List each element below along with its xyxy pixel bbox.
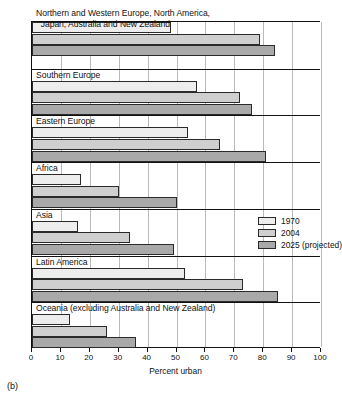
bar-group: Oceania (excluding Australia and New Zea… — [32, 302, 320, 349]
x-tick-label-70: 70 — [229, 353, 238, 362]
legend-swatch-2025 — [258, 241, 276, 249]
chart-legend: 1970 2004 2025 (projected) — [258, 215, 342, 251]
bar-2025projected — [32, 291, 278, 302]
x-tick-40 — [147, 348, 148, 352]
legend-item: 1970 — [258, 215, 342, 226]
x-tick-label-10: 10 — [55, 353, 64, 362]
bar-2004 — [32, 326, 107, 337]
x-tick-label-90: 90 — [287, 353, 296, 362]
gridline-100 — [321, 22, 322, 347]
legend-item: 2004 — [258, 227, 342, 238]
group-separator — [32, 162, 320, 163]
bar-group: Eastern Europe — [32, 115, 320, 162]
legend-item: 2025 (projected) — [258, 239, 342, 250]
chart-plot-area: Northern and Western Europe, North Ameri… — [31, 21, 320, 348]
x-tick-label-60: 60 — [200, 353, 209, 362]
bar-2025projected — [32, 197, 177, 208]
bar-1970 — [32, 221, 78, 232]
x-axis-title: Percent urban — [31, 366, 320, 376]
bar-2004 — [32, 139, 220, 150]
legend-label-2004: 2004 — [281, 228, 300, 238]
bar-2004 — [32, 279, 243, 290]
legend-swatch-2004 — [258, 229, 276, 237]
bar-group: Latin America — [32, 256, 320, 303]
x-tick-60 — [204, 348, 205, 352]
x-tick-50 — [176, 348, 177, 352]
bar-2004 — [32, 92, 240, 103]
x-tick-20 — [89, 348, 90, 352]
x-tick-label-20: 20 — [84, 353, 93, 362]
x-tick-label-40: 40 — [142, 353, 151, 362]
x-tick-label-100: 100 — [313, 353, 326, 362]
bar-2025projected — [32, 151, 266, 162]
bar-1970 — [32, 268, 185, 279]
bar-group: Southern Europe — [32, 69, 320, 116]
bar-1970 — [32, 81, 197, 92]
x-tick-70 — [233, 348, 234, 352]
x-tick-0 — [31, 348, 32, 352]
x-tick-10 — [60, 348, 61, 352]
bar-2004 — [32, 34, 260, 45]
legend-label-1970: 1970 — [281, 216, 300, 226]
bar-group-label: Latin America — [36, 257, 87, 268]
x-tick-label-80: 80 — [258, 353, 267, 362]
bar-2025projected — [32, 104, 252, 115]
bar-2025projected — [32, 244, 174, 255]
bar-group: Africa — [32, 162, 320, 209]
bar-group-label: Asia — [36, 210, 53, 221]
legend-swatch-1970 — [258, 217, 276, 225]
bar-2025projected — [32, 337, 136, 348]
x-tick-90 — [291, 348, 292, 352]
group-separator — [32, 209, 320, 210]
bar-group-label: Oceania (excluding Australia and New Zea… — [36, 303, 215, 314]
x-tick-100 — [320, 348, 321, 352]
bar-1970 — [32, 314, 70, 325]
bar-group: Northern and Western Europe, North Ameri… — [32, 22, 320, 69]
bar-1970 — [32, 127, 188, 138]
x-tick-80 — [262, 348, 263, 352]
x-tick-30 — [118, 348, 119, 352]
x-tick-label-50: 50 — [171, 353, 180, 362]
bar-group-label: Africa — [36, 163, 58, 174]
bar-2025projected — [32, 45, 275, 56]
x-tick-label-0: 0 — [29, 353, 33, 362]
bar-2004 — [32, 186, 119, 197]
bar-group-label: Northern and Western Europe, North Ameri… — [36, 8, 210, 29]
bar-group-label: Southern Europe — [36, 70, 100, 81]
bar-2004 — [32, 232, 130, 243]
legend-label-2025: 2025 (projected) — [281, 240, 342, 250]
x-tick-label-30: 30 — [113, 353, 122, 362]
bar-group-label: Eastern Europe — [36, 116, 95, 127]
panel-caption: (b) — [7, 381, 18, 391]
bar-1970 — [32, 174, 81, 185]
